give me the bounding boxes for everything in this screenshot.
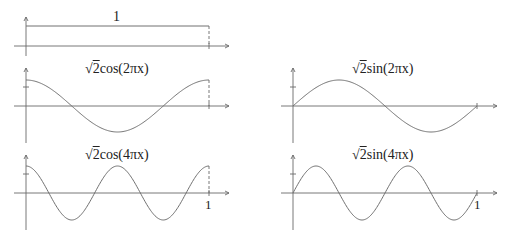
- label-box: 1: [113, 9, 120, 25]
- label-cos2: √2cos(2πx): [85, 61, 149, 77]
- label-sin2: √2sin(2πx): [352, 61, 413, 77]
- x-end-label-cos4: 1: [205, 197, 212, 213]
- label-sin4: √2sin(4πx): [352, 147, 413, 163]
- x-end-label-sin4: 1: [474, 197, 481, 213]
- function-plots: [0, 0, 513, 244]
- label-cos4: √2cos(4πx): [85, 147, 149, 163]
